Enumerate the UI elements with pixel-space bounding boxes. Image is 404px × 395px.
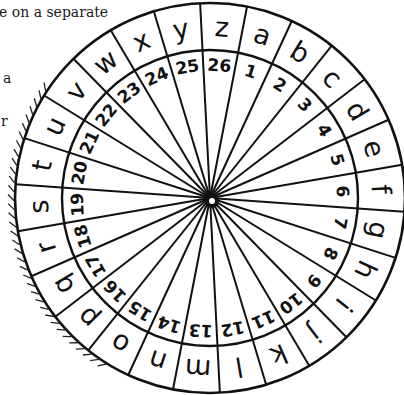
wheel-letter: g — [362, 219, 396, 242]
wheel-number: 11 — [249, 306, 279, 334]
wheel-letter: n — [144, 344, 170, 379]
hatch-mark — [44, 83, 45, 92]
wheel-number: 1 — [242, 60, 259, 83]
wheel-number: 14 — [155, 311, 184, 337]
hatch-mark — [26, 115, 29, 123]
hatch-mark — [12, 158, 17, 165]
wheel-number: 5 — [326, 151, 349, 168]
hatch-mark — [8, 194, 14, 200]
center-pin-hole — [209, 198, 215, 204]
hatch-mark — [10, 167, 15, 174]
hatch-mark — [57, 329, 66, 330]
wheel-letter: s — [23, 199, 55, 215]
wheel-number: 4 — [313, 120, 336, 141]
hatch-mark — [16, 140, 20, 148]
wheel-letter: m — [184, 353, 212, 386]
hatch-mark — [8, 185, 14, 192]
wheel-letter: z — [214, 11, 230, 43]
hatch-mark — [90, 359, 99, 360]
spoke-line — [15, 184, 210, 198]
hatch-mark — [98, 364, 107, 366]
wheel-letter: f — [366, 184, 398, 197]
cipher-wheel: zabcdefghijklmnopqrstuvwxy 2612345678910… — [0, 0, 404, 395]
wheel-letter: w — [87, 43, 123, 81]
wheel-letter: v — [59, 75, 93, 107]
wheel-number: 25 — [174, 55, 201, 79]
wheel-letter: p — [70, 301, 104, 335]
wheel-number: 6 — [333, 185, 354, 198]
wheel-letter: l — [233, 351, 246, 383]
hatch-mark — [9, 213, 16, 219]
hatch-mark — [22, 123, 25, 131]
wheel-letter: q — [45, 270, 80, 301]
wheel-number: 26 — [207, 55, 232, 77]
wheel-letter: y — [170, 12, 191, 45]
wheel-letter: i — [330, 292, 359, 317]
wheel-letter: c — [316, 62, 349, 94]
wheel-number: 20 — [67, 159, 91, 186]
wheel-letter: a — [250, 17, 275, 52]
wheel-number: 3 — [294, 94, 317, 116]
hatch-mark — [8, 204, 14, 210]
wheel-number: 19 — [67, 192, 88, 217]
wheel-letter: o — [105, 326, 135, 361]
wheel-letter: t — [25, 157, 57, 173]
hatch-mark — [14, 149, 18, 156]
wheel-letter: u — [37, 112, 72, 141]
wheel-letter: k — [265, 338, 292, 373]
wheel-letter: j — [302, 319, 328, 349]
hatch-mark — [34, 98, 36, 106]
wheel-number: 9 — [302, 270, 325, 292]
wheel-number: 21 — [75, 127, 103, 157]
spoke-line — [210, 198, 376, 301]
wheel-number: 2 — [270, 73, 291, 96]
wheel-letter: h — [348, 256, 383, 285]
spoke-line — [31, 198, 210, 276]
wheel-letter: d — [340, 95, 375, 126]
spoke-line — [210, 198, 404, 212]
wheel-number: 7 — [330, 216, 352, 231]
wheel-letter: x — [128, 24, 155, 59]
wheel-number: 12 — [219, 317, 246, 341]
wheel-letter: r — [29, 237, 62, 257]
hatch-mark — [83, 354, 92, 355]
hatch-mark — [39, 90, 41, 98]
wheel-number: 8 — [319, 244, 342, 263]
wheel-number: 18 — [70, 222, 96, 250]
spoke-line — [210, 79, 365, 198]
wheel-letter: b — [285, 34, 316, 69]
hatch-mark — [51, 322, 60, 323]
hatch-mark — [9, 222, 16, 227]
wheel-number: 24 — [142, 62, 172, 90]
wheel-number: 13 — [188, 320, 213, 342]
hatch-mark — [9, 176, 14, 183]
hatch-mark — [19, 132, 23, 140]
hatch-mark — [30, 106, 33, 114]
wheel-letter: e — [357, 136, 391, 161]
